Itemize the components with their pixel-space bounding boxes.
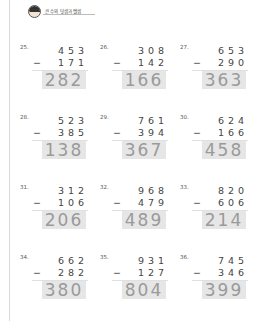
problem-number: 32. [100,184,109,190]
digit: 2 [56,267,66,278]
header-underline [43,14,95,15]
problem-number: 26. [100,44,109,50]
minuend: 308 [114,45,166,56]
digit: 3 [146,255,156,266]
subtrahend: 106 [34,197,86,208]
digit: 9 [146,127,156,138]
subtraction-problem: 31.312−106206 [20,184,100,246]
digit: 2 [156,57,166,68]
answer-box[interactable]: 166 [122,71,166,89]
digit: 0 [236,185,246,196]
digit: 5 [76,127,86,138]
digit: 9 [156,197,166,208]
digit: 2 [76,185,86,196]
digit: 2 [66,115,76,126]
digit: 5 [236,255,246,266]
answer-box[interactable]: 282 [42,71,86,89]
minuend: 745 [194,255,246,266]
digit: 4 [156,127,166,138]
digit: 8 [156,45,166,56]
digit: 9 [136,255,146,266]
digit: 6 [216,197,226,208]
answer-box[interactable]: 206 [42,211,86,229]
digit: 4 [146,57,156,68]
answer-box[interactable]: 458 [202,141,246,159]
minuend: 624 [194,115,246,126]
subtrahend: 346 [194,267,246,278]
digit: 3 [216,267,226,278]
answer-box[interactable]: 214 [202,211,246,229]
problem-number: 35. [100,254,109,260]
subtraction-problem: 27.653−290363 [180,44,260,106]
digit: 6 [66,255,76,266]
problem-number: 27. [180,44,189,50]
problem-number: 29. [100,114,109,120]
digit: 3 [56,127,66,138]
subtraction-problem: 28.523−385138 [20,114,100,176]
digit: 1 [56,57,66,68]
chapter-header: 큰 수의 덧셈과 뺄셈 [28,4,81,18]
digit: 4 [226,255,236,266]
digit: 5 [66,45,76,56]
subtrahend: 606 [194,197,246,208]
answer-box[interactable]: 138 [42,141,86,159]
digit: 6 [146,185,156,196]
minuend: 761 [114,115,166,126]
digit: 5 [56,115,66,126]
answer-box[interactable]: 489 [122,211,166,229]
digit: 7 [146,197,156,208]
answer-box[interactable]: 367 [122,141,166,159]
problem-number: 28. [20,114,29,120]
digit: 3 [76,45,86,56]
digit: 7 [136,115,146,126]
digit: 8 [66,267,76,278]
problem-number: 36. [180,254,189,260]
digit: 6 [236,127,246,138]
digit: 4 [226,267,236,278]
digit: 1 [136,267,146,278]
digit: 6 [56,255,66,266]
digit: 6 [76,197,86,208]
digit: 6 [236,267,246,278]
digit: 1 [156,255,166,266]
subtraction-problem: 25.453−171282 [20,44,100,106]
digit: 4 [236,115,246,126]
problem-number: 31. [20,184,29,190]
digit: 9 [226,57,236,68]
minuend: 312 [34,185,86,196]
digit: 3 [136,127,146,138]
digit: 6 [226,127,236,138]
subtraction-problem: 30.624−166458 [180,114,260,176]
minuend: 931 [114,255,166,266]
answer-box[interactable]: 399 [202,281,246,299]
minuend: 820 [194,185,246,196]
answer-box[interactable]: 363 [202,71,246,89]
answer-box[interactable]: 380 [42,281,86,299]
digit: 8 [66,127,76,138]
digit: 2 [146,267,156,278]
answer-box[interactable]: 804 [122,281,166,299]
digit: 8 [216,185,226,196]
subtrahend: 385 [34,127,86,138]
digit: 0 [66,197,76,208]
digit: 1 [156,115,166,126]
digit: 6 [216,115,226,126]
digit: 3 [136,45,146,56]
digit: 9 [136,185,146,196]
minuend: 523 [34,115,86,126]
subtraction-problem: 34.662−282380 [20,254,100,316]
digit: 6 [236,197,246,208]
digit: 4 [136,197,146,208]
boy-avatar-icon [28,5,41,18]
subtraction-problem: 32.968−479489 [100,184,180,246]
problem-number: 33. [180,184,189,190]
digit: 2 [76,255,86,266]
subtraction-problem: 36.745−346399 [180,254,260,316]
subtrahend: 142 [114,57,166,68]
problem-number: 34. [20,254,29,260]
minuend: 662 [34,255,86,266]
digit: 3 [76,115,86,126]
digit: 2 [216,57,226,68]
problem-number: 25. [20,44,29,50]
digit: 6 [216,45,226,56]
